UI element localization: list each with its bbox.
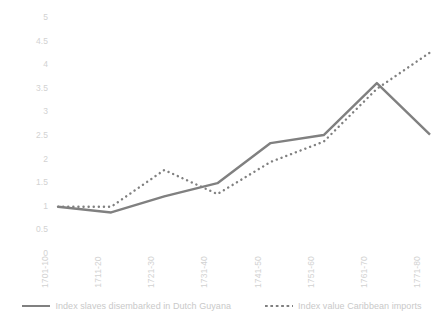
y-axis-tick-label: 5 xyxy=(2,13,48,22)
y-axis-tick-label: 4 xyxy=(2,60,48,69)
y-axis-tick-label: 2.5 xyxy=(2,131,48,140)
series-line-slaves-disembarked xyxy=(58,83,430,212)
y-axis-tick-label: 2 xyxy=(2,155,48,164)
x-axis-tick: 1751-60 xyxy=(302,254,346,298)
y-axis-tick-label: 1 xyxy=(2,202,48,211)
x-axis-tick: 1721-30 xyxy=(142,254,186,298)
x-axis-tick: 1741-50 xyxy=(249,254,293,298)
x-axis-tick: 1771-80 xyxy=(408,254,444,298)
y-axis-tick-label: 3 xyxy=(2,107,48,116)
x-axis-tick-label: 1701-10 xyxy=(40,256,50,288)
x-axis-tick-label: 1771-80 xyxy=(412,256,422,288)
x-axis: 1701-101711-201721-301731-401741-501751-… xyxy=(58,254,430,298)
line-chart: 54.543.532.521.510.50 1701-101711-201721… xyxy=(0,0,444,319)
legend-item-slaves-disembarked: Index slaves disembarked in Dutch Guyana xyxy=(22,301,231,312)
x-axis-tick-label: 1761-70 xyxy=(359,256,369,288)
y-axis-tick-label: 3.5 xyxy=(2,84,48,93)
x-axis-tick-label: 1721-30 xyxy=(146,256,156,288)
x-axis-tick: 1711-20 xyxy=(89,254,133,298)
x-axis-tick: 1761-70 xyxy=(355,254,399,298)
series-line-caribbean-imports xyxy=(58,52,430,206)
series-canvas xyxy=(58,18,430,254)
x-axis-tick-label: 1731-40 xyxy=(199,256,209,288)
y-axis-tick-label: 4.5 xyxy=(2,37,48,46)
legend-item-caribbean-imports: Index value Caribbean imports xyxy=(265,301,422,312)
x-axis-tick: 1701-10 xyxy=(36,254,80,298)
y-axis-tick-label: 1.5 xyxy=(2,178,48,187)
legend-label-caribbean-imports: Index value Caribbean imports xyxy=(298,301,422,312)
x-axis-tick-label: 1711-20 xyxy=(93,256,103,287)
legend-label-slaves-disembarked: Index slaves disembarked in Dutch Guyana xyxy=(55,301,231,312)
legend-dotted-line-icon xyxy=(265,301,293,311)
x-axis-tick-label: 1751-60 xyxy=(306,256,316,288)
x-axis-tick: 1731-40 xyxy=(195,254,239,298)
plot-area xyxy=(58,18,430,254)
x-axis-tick-label: 1741-50 xyxy=(253,256,263,288)
legend-solid-line-icon xyxy=(22,301,50,311)
chart-legend: Index slaves disembarked in Dutch Guyana… xyxy=(0,297,444,315)
y-axis-tick-label: 0.5 xyxy=(2,225,48,234)
